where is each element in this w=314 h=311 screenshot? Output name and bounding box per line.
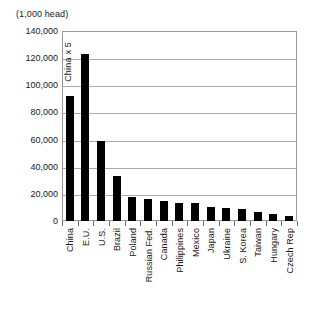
bar bbox=[254, 212, 262, 222]
x-axis-tick bbox=[203, 221, 204, 226]
x-axis-category-label: Philippines bbox=[175, 228, 185, 273]
x-axis-category-label: Canada bbox=[159, 228, 169, 260]
bar-slot bbox=[281, 31, 297, 221]
bar-slot bbox=[109, 31, 125, 221]
y-axis-tick-label: 120,000 bbox=[2, 53, 58, 63]
x-axis-tick bbox=[125, 221, 126, 226]
bars-layer bbox=[62, 31, 297, 221]
y-axis-tick-label: 20,000 bbox=[2, 189, 58, 199]
chart-title: (1,000 head) bbox=[16, 9, 68, 19]
x-axis-tick bbox=[109, 221, 110, 226]
bar-slot bbox=[78, 31, 94, 221]
bar bbox=[81, 54, 89, 221]
x-axis-tick bbox=[297, 221, 298, 226]
bar-chart: (1,000 head) 020,00040,00060,00080,00010… bbox=[0, 0, 314, 311]
x-axis-category-label: Hungary bbox=[269, 228, 279, 263]
x-axis-category-label: U.S. bbox=[97, 228, 107, 246]
y-axis-tick-label: 0 bbox=[2, 216, 58, 226]
x-axis-tick bbox=[187, 221, 188, 226]
x-axis-category-labels: ChinaE.U.U.S.BrazilPolandRussian Fed.Can… bbox=[62, 228, 297, 308]
bar-slot bbox=[234, 31, 250, 221]
bar bbox=[191, 203, 199, 221]
x-axis-tick bbox=[281, 221, 282, 226]
bar-slot bbox=[266, 31, 282, 221]
x-axis-tick bbox=[172, 221, 173, 226]
x-axis-category-label: Russian Fed. bbox=[144, 228, 154, 282]
x-axis-tick bbox=[156, 221, 157, 226]
x-axis-category-label: Brazil bbox=[112, 228, 122, 251]
bar bbox=[128, 197, 136, 221]
x-axis-tick bbox=[93, 221, 94, 226]
x-axis-category-label: Czech Rep bbox=[285, 228, 295, 273]
x-axis-category-label: E.U. bbox=[81, 228, 91, 246]
bar bbox=[269, 214, 277, 221]
y-axis-tick-label: 140,000 bbox=[2, 26, 58, 36]
bar bbox=[238, 209, 246, 221]
bar-slot bbox=[203, 31, 219, 221]
y-axis-tick-label: 40,000 bbox=[2, 162, 58, 172]
x-axis-tick bbox=[250, 221, 251, 226]
x-axis-tick bbox=[266, 221, 267, 226]
bar bbox=[144, 199, 152, 221]
x-axis-tick bbox=[140, 221, 141, 226]
x-axis-category-label: Mexico bbox=[191, 228, 201, 257]
bar bbox=[207, 207, 215, 221]
x-axis-category-label: China bbox=[65, 228, 75, 252]
x-axis-tick bbox=[234, 221, 235, 226]
x-axis-category-label: Poland bbox=[128, 228, 138, 257]
x-axis-category-label: Japan bbox=[206, 228, 216, 253]
bar-slot bbox=[125, 31, 141, 221]
x-axis-category-label: Taiwan bbox=[253, 228, 263, 257]
x-axis-tick bbox=[219, 221, 220, 226]
x-axis-ticks bbox=[62, 221, 297, 226]
bar bbox=[66, 96, 74, 221]
bar bbox=[113, 176, 121, 221]
bar-slot bbox=[172, 31, 188, 221]
bar-slot bbox=[156, 31, 172, 221]
x-axis-tick bbox=[62, 221, 63, 226]
bar bbox=[97, 141, 105, 221]
bar-slot bbox=[93, 31, 109, 221]
bar-slot bbox=[250, 31, 266, 221]
bar bbox=[222, 208, 230, 221]
y-axis-tick-label: 60,000 bbox=[2, 135, 58, 145]
bar-slot bbox=[140, 31, 156, 221]
bar bbox=[160, 201, 168, 221]
bar-slot bbox=[219, 31, 235, 221]
china-scale-annotation: China x 5 bbox=[63, 42, 73, 82]
x-axis-category-label: Ukraine bbox=[222, 228, 232, 260]
x-axis-category-label: S. Korea bbox=[238, 228, 248, 264]
x-axis-tick bbox=[78, 221, 79, 226]
y-axis-tick-label: 80,000 bbox=[2, 107, 58, 117]
y-axis-tick-label: 100,000 bbox=[2, 80, 58, 90]
bar bbox=[175, 203, 183, 221]
bar-slot bbox=[187, 31, 203, 221]
